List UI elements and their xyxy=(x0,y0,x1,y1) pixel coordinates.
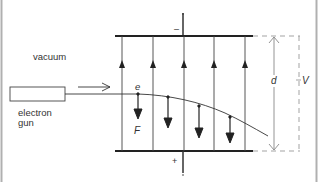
arrow-up-icon xyxy=(181,60,187,68)
arrow-down-icon xyxy=(164,118,172,128)
arrow-down-icon xyxy=(226,133,234,143)
arrow-up-icon xyxy=(211,60,217,68)
dashed-extensions xyxy=(253,36,300,151)
bottom-plate-sign: + xyxy=(172,156,177,166)
arrow-down-icon xyxy=(134,109,142,119)
separation-label: d xyxy=(271,75,277,86)
field-arrow-heads xyxy=(119,60,248,68)
arrow-up-icon xyxy=(242,60,248,68)
electron-gun-label-line2: gun xyxy=(18,117,34,128)
vacuum-label: vacuum xyxy=(33,51,66,62)
top-plate-sign: – xyxy=(174,24,179,34)
diagram-canvas: – + vacuum electron xyxy=(0,0,319,182)
frame xyxy=(2,0,317,182)
bottom-terminal xyxy=(182,151,184,176)
arrow-up-icon xyxy=(150,60,156,68)
voltage-label: V xyxy=(302,75,310,86)
arrow-up-icon xyxy=(119,60,125,68)
beam-direction-arrow xyxy=(78,83,110,91)
top-terminal xyxy=(182,13,184,36)
dimension-d xyxy=(269,37,279,150)
electron-label: e xyxy=(135,81,140,92)
force-label: F xyxy=(134,125,141,136)
arrow-down-icon xyxy=(195,128,203,138)
electron-gun xyxy=(10,87,65,101)
electron-path xyxy=(65,94,268,136)
